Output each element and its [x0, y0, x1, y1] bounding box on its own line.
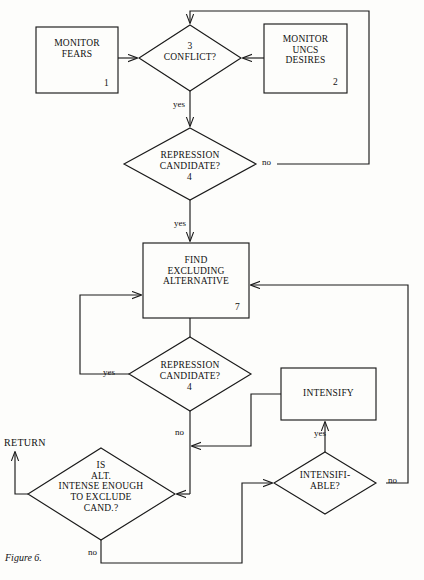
node-number-monitor-uncs-desires: 2 [333, 77, 338, 87]
edge-intensifiable-no [251, 285, 408, 483]
edge-label-repression-top-no: no [262, 157, 271, 167]
node-shape-find-excluding-alternative [143, 243, 249, 318]
edge-label-is-alt-no: no [88, 547, 97, 557]
edge-label-repression-top-yes: yes [174, 218, 186, 228]
node-number-monitor-fears: 1 [104, 78, 109, 88]
node-shape-conflict [139, 25, 241, 91]
node-shape-repression-top [124, 128, 256, 200]
node-number-repression-candidate-top: 4 [187, 172, 192, 182]
node-shape-intensifiable [274, 452, 376, 514]
edge-label-intensifiable-yes: yes [314, 428, 326, 438]
node-shape-repression-mid [129, 337, 251, 411]
flowchart-diagram [0, 0, 424, 580]
edge-repression-mid-yes [80, 295, 141, 374]
edge-label-repression-mid-yes: yes [103, 367, 115, 377]
edge-label-conflict-yes: yes [173, 99, 185, 109]
node-number-repression-candidate-mid: 4 [187, 382, 192, 392]
edge-is-alt-no [101, 483, 272, 563]
figure-caption: Figure 6. [5, 552, 42, 563]
edge-is-alt-return [15, 452, 28, 494]
flowchart-figure: MONITOR FEARS 1 MONITOR UNCS DESIRES 2 3… [0, 0, 424, 580]
edge-label-repression-mid-no: no [175, 427, 184, 437]
edge-repression-top-no [277, 157, 369, 164]
node-shape-is-alt [28, 448, 175, 540]
edge-label-intensifiable-no: no [388, 475, 397, 485]
terminal-return-label: RETURN [4, 437, 46, 448]
node-shape-intensify [281, 368, 376, 420]
edge-feedback-to-conflict [190, 11, 369, 157]
node-number-find-excluding-alternative: 7 [235, 302, 240, 312]
